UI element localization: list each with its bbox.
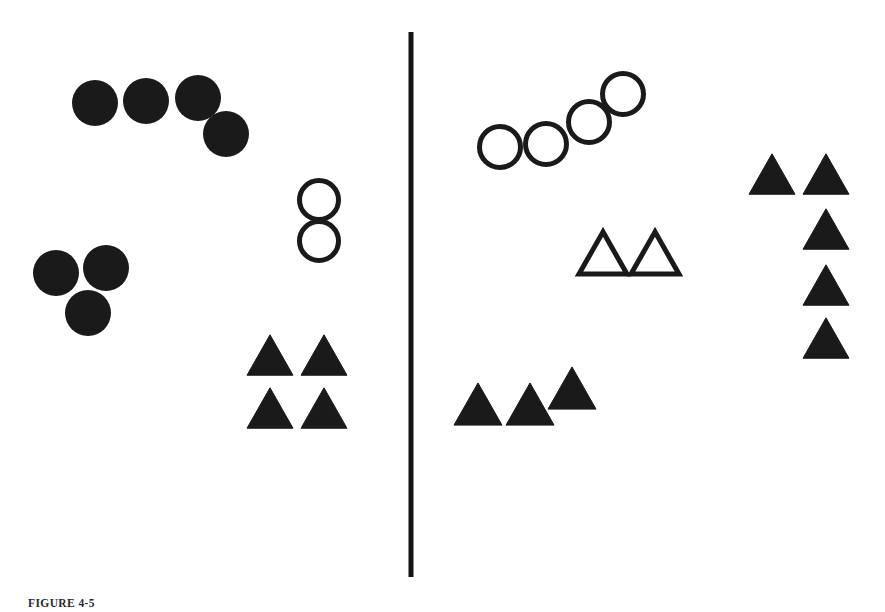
filled-circle-marker bbox=[72, 80, 118, 126]
filled-circle-marker bbox=[203, 111, 249, 157]
filled-circle-marker bbox=[83, 245, 129, 291]
filled-circle-marker bbox=[175, 75, 221, 121]
figure-caption-label: FIGURE 4-5 bbox=[28, 597, 95, 609]
grouping-figure-canvas bbox=[0, 0, 885, 612]
filled-circle-marker bbox=[65, 290, 111, 336]
figure-caption: FIGURE 4-5 bbox=[28, 596, 868, 611]
filled-circle-marker bbox=[123, 78, 169, 124]
figure-root: FIGURE 4-5 bbox=[0, 0, 885, 612]
filled-circle-marker bbox=[33, 250, 79, 296]
